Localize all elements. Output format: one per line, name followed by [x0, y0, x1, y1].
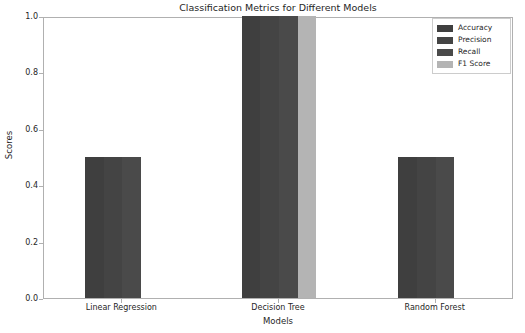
y-axis-tick-label: 0.2 — [8, 239, 38, 247]
bar — [298, 16, 317, 298]
y-axis-tick-label: 1.0 — [8, 13, 38, 21]
legend-item-label: Precision — [458, 36, 491, 44]
x-axis-tick-mark — [121, 299, 122, 303]
x-axis-tick-mark — [435, 299, 436, 303]
legend-color-swatch — [437, 25, 453, 32]
y-axis-tick-label: 0.4 — [8, 182, 38, 190]
legend-item: Accuracy — [437, 22, 506, 34]
bar — [436, 157, 455, 298]
legend-item-label: F1 Score — [458, 60, 490, 68]
legend-color-swatch — [437, 61, 453, 68]
legend-item: Recall — [437, 46, 506, 58]
bar — [279, 16, 298, 298]
legend-item-label: Recall — [458, 48, 480, 56]
bar — [122, 157, 141, 298]
y-axis-tick-mark — [39, 299, 43, 300]
bar — [417, 157, 436, 298]
bar — [260, 16, 279, 298]
legend-item-label: Accuracy — [458, 24, 492, 32]
x-axis-label: Models — [43, 316, 513, 326]
x-axis-tick-label: Decision Tree — [198, 303, 358, 313]
bar — [242, 16, 261, 298]
bar — [85, 157, 104, 298]
x-axis-tick-mark — [278, 299, 279, 303]
legend-color-swatch — [437, 49, 453, 56]
x-axis-tick-label: Linear Regression — [41, 303, 201, 313]
y-axis-tick-label: 0.8 — [8, 69, 38, 77]
figure-canvas: Classification Metrics for Different Mod… — [0, 0, 525, 333]
bar — [104, 157, 123, 298]
y-axis-tick-label: 0.6 — [8, 126, 38, 134]
chart-legend: AccuracyPrecisionRecallF1 Score — [432, 18, 511, 74]
x-axis-tick-label: Random Forest — [355, 303, 515, 313]
legend-item: Precision — [437, 34, 506, 46]
chart-title: Classification Metrics for Different Mod… — [43, 1, 513, 15]
legend-color-swatch — [437, 37, 453, 44]
legend-item: F1 Score — [437, 58, 506, 70]
y-axis-label: Scores — [4, 131, 14, 159]
y-axis-tick-label: 0.0 — [8, 295, 38, 303]
bar — [398, 157, 417, 298]
